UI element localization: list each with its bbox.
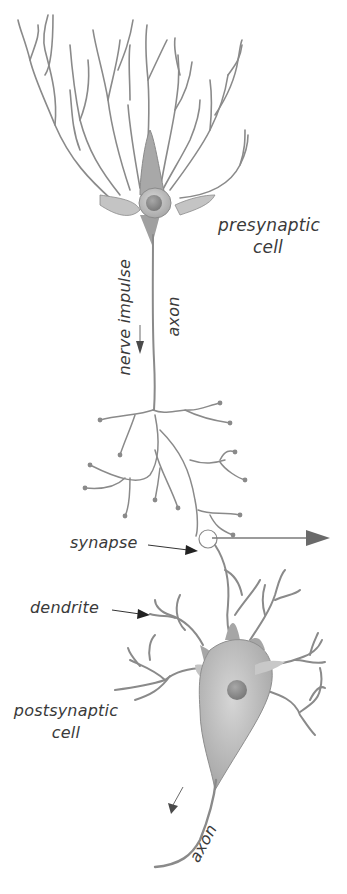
zoom-arrow-head <box>306 530 330 546</box>
axon-terminals <box>85 403 245 536</box>
label-presynaptic-line1: presynaptic <box>218 214 318 236</box>
postsynaptic-soma <box>195 623 285 790</box>
label-nerve-impulse: nerve impulse <box>115 264 134 376</box>
dendrite-pointer-line <box>112 610 140 614</box>
label-dendrite: dendrite <box>30 598 99 617</box>
presynaptic-axon <box>153 235 155 410</box>
impulse-arrow-head <box>136 341 144 354</box>
bottom-axon-arrow-head <box>168 803 178 814</box>
label-axon-top: axon <box>164 293 183 337</box>
postsynaptic-nucleus <box>227 680 247 700</box>
bottom-axon-arrow-line <box>173 787 183 805</box>
label-postsynaptic-cell: postsynaptic cell <box>10 700 122 744</box>
neuron-diagram <box>0 0 347 894</box>
dendrite-pointer-head <box>137 609 150 619</box>
label-presynaptic-cell: presynaptic cell <box>218 214 318 258</box>
synapse-pointer-line <box>148 545 188 550</box>
label-synapse: synapse <box>70 533 138 552</box>
label-presynaptic-line2: cell <box>218 236 318 258</box>
label-postsynaptic-line2: cell <box>10 722 122 744</box>
label-postsynaptic-line1: postsynaptic <box>10 700 122 722</box>
presynaptic-dendrites <box>18 15 248 200</box>
presynaptic-nucleus <box>146 195 162 211</box>
synapse-pointer-head <box>185 545 198 555</box>
